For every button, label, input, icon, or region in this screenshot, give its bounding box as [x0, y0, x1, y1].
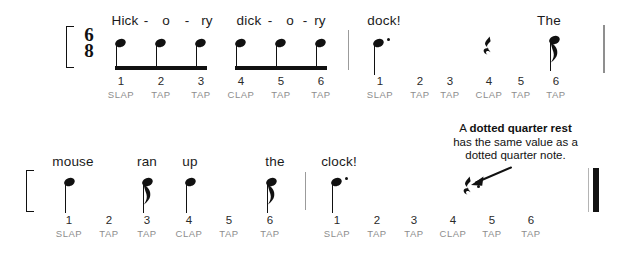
articulation-label: TAP: [410, 89, 429, 100]
stem: [374, 44, 376, 75]
articulation-label: CLAP: [176, 228, 203, 239]
system-1: 6 8 Hickorydickorydock!The----: [0, 0, 632, 105]
beat-number: 3: [447, 75, 453, 87]
system-bracket: [66, 26, 74, 68]
articulation-label: TAP: [482, 228, 501, 239]
beat-number: 6: [528, 214, 534, 226]
beat-number: 2: [417, 75, 423, 87]
system-2: mouseranuptheclock!: [0, 150, 632, 263]
articulation-label: TAP: [367, 228, 386, 239]
beat-number: 3: [411, 214, 417, 226]
lyric-hyphen: -: [144, 13, 149, 28]
flag-glyph: [550, 41, 562, 65]
beat-number: 4: [238, 75, 244, 87]
lyric-up: up: [182, 154, 197, 169]
annotation-bold-term: dotted quarter rest: [469, 122, 571, 134]
rest-quarter-beat4: [481, 36, 495, 66]
barline: [348, 30, 349, 70]
beat-number: 3: [198, 75, 204, 87]
quarter-rest-glyph: [481, 36, 495, 62]
annotation-line-2: has the same value as a: [413, 136, 618, 150]
beat-number: 2: [374, 214, 380, 226]
eighth-flag: [267, 183, 279, 211]
articulation-label: CLAP: [440, 228, 467, 239]
beat-number: 1: [118, 75, 124, 87]
eighth-flag: [143, 183, 155, 211]
augmentation-dot: [387, 38, 390, 41]
annotation-line-1: A dotted quarter rest: [413, 122, 618, 136]
stem: [332, 183, 334, 213]
stem: [186, 183, 188, 213]
lyric-ry: ry: [201, 13, 213, 28]
articulation-label: TAP: [521, 228, 540, 239]
beat-number: 5: [518, 75, 524, 87]
articulation-label: TAP: [191, 89, 210, 100]
articulation-label: TAP: [404, 228, 423, 239]
lyric-dick: dick: [237, 13, 262, 28]
lyric-o: o: [162, 13, 170, 28]
beat-number: 5: [489, 214, 495, 226]
articulation-label: SLAP: [324, 228, 350, 239]
articulation-label: TAP: [151, 89, 170, 100]
final-barline-thin: [588, 168, 589, 212]
annotation-arrow: [467, 166, 513, 194]
articulation-label: CLAP: [476, 89, 503, 100]
lyric-hick: Hick: [111, 13, 138, 28]
beat-number: 1: [66, 214, 72, 226]
stem: [65, 183, 67, 213]
articulation-label: SLAP: [108, 89, 134, 100]
articulation-label: TAP: [511, 89, 530, 100]
beat-number: 1: [377, 75, 383, 87]
rhythm-worksheet: 6 8 Hickorydickorydock!The----: [0, 0, 632, 263]
lyric-the: the: [265, 154, 284, 169]
lyric-o: o: [286, 13, 294, 28]
beat-number: 4: [486, 75, 492, 87]
articulation-label: TAP: [311, 89, 330, 100]
articulation-label: TAP: [219, 228, 238, 239]
lyric-mouse: mouse: [52, 154, 94, 169]
flag-glyph: [267, 183, 279, 207]
beat-number: 2: [106, 214, 112, 226]
beat-number: 5: [226, 214, 232, 226]
lyric-the: The: [537, 13, 561, 28]
articulation-label: TAP: [137, 228, 156, 239]
lyric-clock: clock!: [321, 154, 357, 169]
beam-group-1: [115, 66, 207, 70]
articulation-label: TAP: [271, 89, 290, 100]
time-signature-denominator: 8: [80, 43, 98, 59]
arrow-icon: [467, 166, 513, 190]
articulation-label: TAP: [99, 228, 118, 239]
time-signature: 6 8: [80, 27, 98, 59]
lyric-hyphen: -: [268, 13, 273, 28]
beat-number: 6: [318, 75, 324, 87]
eighth-flag: [550, 41, 562, 69]
lyric-ry: ry: [314, 13, 326, 28]
annotation-callout: A dotted quarter rest has the same value…: [413, 122, 618, 163]
final-barline-thick: [593, 168, 599, 212]
articulation-label: TAP: [440, 89, 459, 100]
articulation-label: SLAP: [367, 89, 393, 100]
augmentation-dot: [345, 177, 348, 180]
beat-number: 4: [186, 214, 192, 226]
beat-number: 6: [553, 75, 559, 87]
end-barline-system-1: [603, 25, 605, 73]
annotation-line-3: dotted quarter note.: [413, 149, 618, 163]
lyric-dock: dock!: [367, 13, 400, 28]
lyric-ran: ran: [137, 154, 157, 169]
articulation-label: CLAP: [228, 89, 255, 100]
barline: [305, 172, 306, 210]
beam-group-2: [235, 66, 327, 70]
articulation-label: SLAP: [56, 228, 82, 239]
lyric-hyphen: -: [303, 13, 308, 28]
beat-number: 6: [267, 214, 273, 226]
flag-glyph: [143, 183, 155, 207]
beat-number: 2: [158, 75, 164, 87]
system-bracket: [26, 170, 34, 212]
articulation-label: TAP: [260, 228, 279, 239]
lyric-hyphen: -: [185, 13, 190, 28]
articulation-label: TAP: [546, 89, 565, 100]
beat-number: 4: [450, 214, 456, 226]
beat-number: 3: [144, 214, 150, 226]
beat-number: 1: [334, 214, 340, 226]
annotation-prefix: A: [459, 122, 469, 134]
